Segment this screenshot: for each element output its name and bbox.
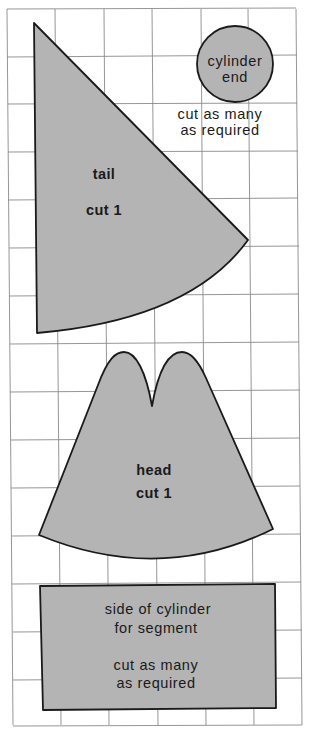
cylinder-end-piece: cylinder end cut as many as required — [178, 26, 273, 138]
cylinder-side-instruction-line1: cut as many — [114, 657, 199, 673]
cylinder-side-label-line1: side of cylinder — [105, 601, 211, 617]
cylinder-side-label-line2: for segment — [114, 620, 197, 636]
cylinder-end-instruction-line1: cut as many — [178, 106, 263, 122]
tail-label: tail — [93, 166, 116, 182]
head-shape — [39, 352, 273, 559]
tail-instruction: cut 1 — [86, 202, 122, 218]
cylinder-end-label-line1: cylinder — [208, 53, 263, 69]
cylinder-side-instruction-line2: as required — [116, 675, 195, 691]
cylinder-end-label-line2: end — [222, 69, 248, 85]
head-piece: head cut 1 — [39, 352, 273, 559]
head-instruction: cut 1 — [136, 485, 172, 501]
pattern-diagram: tail cut 1 cylinder end cut as many as r… — [0, 0, 309, 737]
head-label: head — [136, 462, 171, 478]
cylinder-end-instruction-line2: as required — [180, 122, 259, 138]
cylinder-side-piece: side of cylinder for segment cut as many… — [40, 584, 276, 710]
